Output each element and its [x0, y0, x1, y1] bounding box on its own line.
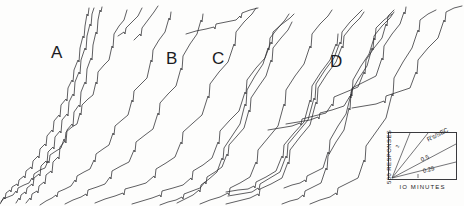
legend-y-axis-label: 500 RESPONSES	[386, 130, 392, 184]
group-label-b: B	[166, 50, 178, 67]
cumulative-trace	[1, 8, 89, 202]
record-group-d-upper	[118, 6, 462, 130]
group-label-c: C	[212, 50, 225, 67]
cumulative-trace	[228, 10, 362, 196]
cumulative-trace	[0, 10, 127, 204]
cumulative-trace	[95, 8, 256, 203]
record-group-a	[0, 7, 127, 204]
cumulative-trace	[65, 14, 203, 204]
group-label-a: A	[51, 44, 63, 61]
record-group-c	[177, 10, 364, 204]
cumulative-trace	[40, 12, 171, 205]
cumulative-trace	[286, 7, 406, 124]
group-label-d: D	[330, 53, 343, 70]
rate-calibration-legend: 500 RESPONSES IO MINUTES R's/SEC 2 0.5 0…	[376, 128, 462, 204]
cumulative-record-figure: A B C D 500 RESPONSES IO MINUTES R's/SEC…	[0, 0, 464, 206]
cumulative-trace	[200, 10, 332, 204]
cumulative-trace	[160, 22, 292, 205]
legend-x-axis-label: IO MINUTES	[388, 184, 457, 190]
cumulative-trace	[186, 8, 258, 34]
cumulative-trace	[26, 7, 102, 203]
cumulative-trace	[352, 6, 462, 108]
cumulative-trace	[226, 12, 364, 204]
record-group-a-mid	[40, 12, 203, 205]
rate-ray-2	[392, 133, 410, 178]
cumulative-trace	[118, 8, 142, 36]
cumulative-trace	[134, 6, 158, 40]
